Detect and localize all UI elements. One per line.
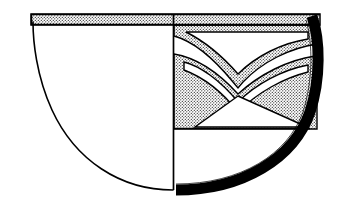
vessel-drawing [0, 0, 346, 218]
rim-band [31, 14, 320, 25]
vessel-figure: Archaeological vessel drawing bowl half-… [0, 0, 346, 218]
